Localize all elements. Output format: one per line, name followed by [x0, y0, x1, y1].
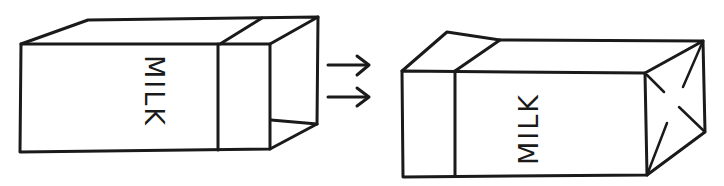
- right-carton-top-edge: [500, 40, 703, 73]
- diagram-canvas: MILK MILK: [0, 0, 724, 186]
- left-carton-top-face: [21, 17, 318, 44]
- left-carton-label: MILK: [139, 55, 170, 127]
- arrow-right-icon: [328, 88, 369, 106]
- left-milk-carton: MILK: [20, 17, 318, 152]
- left-carton-right-edge: [270, 17, 318, 149]
- right-carton-top-flap: [402, 32, 500, 71]
- transform-arrows: [328, 56, 369, 106]
- right-carton-label: MILK: [513, 93, 544, 165]
- arrow-right-icon: [328, 56, 369, 75]
- left-carton-inner-edge: [271, 120, 317, 124]
- right-milk-carton: MILK: [402, 32, 705, 177]
- left-carton-top-seam: [220, 18, 262, 44]
